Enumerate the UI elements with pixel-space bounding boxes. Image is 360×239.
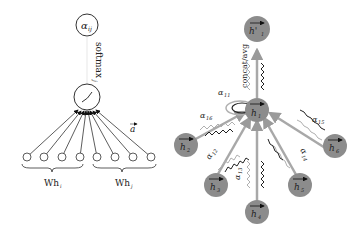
svg-text:h: h <box>294 182 300 192</box>
svg-text:h: h <box>210 182 216 192</box>
svg-text:1: 1 <box>261 31 264 37</box>
svg-text:13: 13 <box>237 168 243 174</box>
svg-text:12: 12 <box>210 148 218 157</box>
edge-label-a13: α 13 <box>233 168 243 180</box>
svg-text:j: j <box>91 78 99 82</box>
left-group-label: Wh i <box>44 178 62 189</box>
attention-vector-label: a <box>130 124 137 134</box>
center-node-h1: h 1 <box>245 98 269 122</box>
svg-text:softmax: softmax <box>94 42 104 78</box>
edge-label-a12: α 12 <box>204 146 219 162</box>
svg-text:Wh: Wh <box>115 178 130 188</box>
neighbor-node-h5: h 5 <box>288 173 312 197</box>
neighbor-node-h2: h 2 <box>174 133 198 157</box>
svg-text:15: 15 <box>318 119 324 125</box>
right-multihead-attention: h' 1 concat/avg h 1 h 2 h 3 <box>174 16 347 224</box>
svg-text:α: α <box>81 20 88 31</box>
neighbor-node-h6: h 6 <box>323 134 347 158</box>
alpha-output-node: α ij <box>76 14 98 36</box>
left-attention-mechanism: α ij softmax j a <box>22 14 156 190</box>
attention-node <box>74 84 100 110</box>
gat-diagram: α ij softmax j a <box>0 0 360 239</box>
svg-text:j: j <box>130 183 133 190</box>
edge-label-a15: α 15 <box>312 115 324 125</box>
svg-text:h': h' <box>249 26 257 36</box>
svg-text:concat/avg: concat/avg <box>240 44 249 88</box>
svg-text:14: 14 <box>300 154 308 163</box>
svg-text:h: h <box>329 143 335 153</box>
svg-text:4: 4 <box>257 214 261 220</box>
edge-label-a14: α 14 <box>297 147 312 163</box>
neighbor-node-h4: h 4 <box>245 200 269 224</box>
output-node-h1-prime: h' 1 <box>244 16 270 42</box>
svg-text:h: h <box>251 108 257 118</box>
edge-label-a11: α 11 <box>218 88 230 98</box>
input-nodes <box>23 153 155 161</box>
svg-text:Wh: Wh <box>44 178 59 188</box>
right-group-label: Wh j <box>115 178 133 190</box>
edge-label-a16: α 16 <box>200 111 213 121</box>
svg-text:i: i <box>60 183 62 189</box>
svg-text:16: 16 <box>206 115 213 121</box>
svg-text:a: a <box>130 124 135 134</box>
group-braces <box>22 164 156 172</box>
svg-text:ij: ij <box>88 25 92 33</box>
svg-text:2: 2 <box>186 147 190 153</box>
svg-text:3: 3 <box>217 187 220 193</box>
aggregate-label: concat/avg <box>240 44 249 88</box>
svg-text:h: h <box>251 209 257 219</box>
svg-text:5: 5 <box>301 187 304 193</box>
softmax-label: softmax j <box>91 42 104 82</box>
svg-text:11: 11 <box>224 92 230 98</box>
svg-text:1: 1 <box>258 113 261 119</box>
svg-text:h: h <box>180 142 186 152</box>
neighbor-node-h3: h 3 <box>204 173 228 197</box>
